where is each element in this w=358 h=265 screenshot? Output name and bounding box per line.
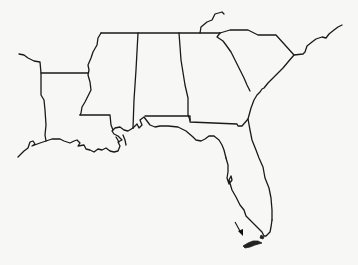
florida-keys-highlight [243, 241, 262, 248]
louisiana-mississippi-south-border [80, 115, 113, 130]
georgia-south-carolina-border [217, 33, 250, 91]
mississippi-river-border [80, 33, 101, 115]
texas-louisiana-border [19, 54, 46, 141]
florida-west-coast [226, 158, 272, 236]
nc-tn-border-stub [200, 12, 224, 33]
arrow-icon [235, 222, 243, 236]
georgia-florida-border [190, 119, 248, 126]
mississippi-alabama-border [133, 33, 138, 128]
gulf-coastline [18, 127, 133, 157]
atlantic-coastline [248, 25, 342, 220]
southeast-us-map [0, 0, 358, 265]
alabama-florida-border [145, 116, 190, 120]
alabama-georgia-border [179, 33, 190, 120]
